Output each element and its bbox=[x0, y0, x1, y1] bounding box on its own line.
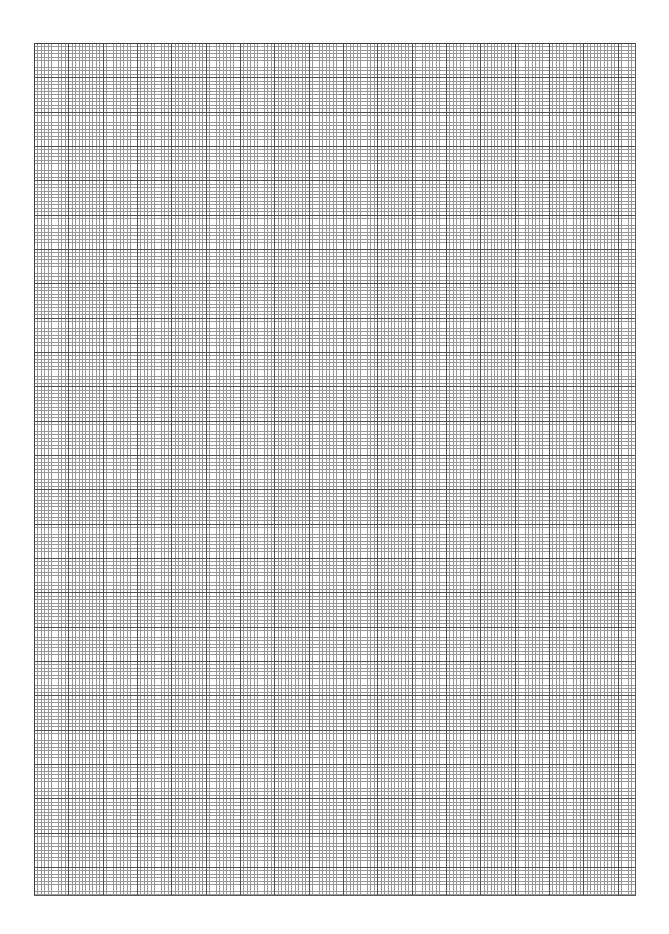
grid-border-right bbox=[635, 43, 636, 896]
grid-border-bottom bbox=[34, 895, 636, 896]
grid-border-left bbox=[34, 43, 35, 896]
grid-border-top bbox=[34, 43, 636, 44]
graph-paper-grid bbox=[34, 43, 636, 896]
graph-paper-page bbox=[0, 0, 669, 934]
